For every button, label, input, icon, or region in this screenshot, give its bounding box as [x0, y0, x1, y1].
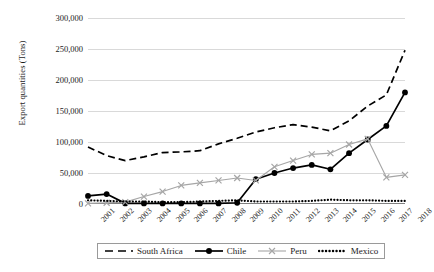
x-tick-label: 2012: [305, 207, 322, 224]
x-tick-label: 2009: [249, 207, 266, 224]
data-point-marker: [290, 158, 296, 164]
data-point-marker: [328, 166, 334, 172]
legend-swatch-dashed: [104, 246, 134, 256]
x-tick-label: 2010: [267, 207, 284, 224]
x-tick-label: 2003: [137, 207, 154, 224]
y-tick-label: 250,000: [55, 45, 83, 54]
x-tick-label: 2014: [342, 207, 359, 224]
series-line: [88, 50, 405, 160]
legend-item-chile[interactable]: Chile: [194, 246, 247, 256]
y-axis-title: Export quantities (Tons): [17, 13, 27, 153]
x-tick-label: 2018: [417, 207, 434, 224]
x-tick-label: 2016: [379, 207, 396, 224]
y-tick-label: 100,000: [55, 138, 83, 147]
legend-item-peru[interactable]: Peru: [257, 246, 307, 256]
x-tick-label: 2004: [156, 207, 173, 224]
y-tick-label: 50,000: [60, 169, 83, 178]
data-point-marker: [271, 164, 277, 170]
x-tick-label: 2017: [398, 207, 415, 224]
legend-item-mexico[interactable]: Mexico: [318, 246, 379, 256]
x-axis-ticks: 2001200220032004200520062007200820092010…: [88, 204, 405, 244]
plot-area: 050,000100,000150,000200,000250,000300,0…: [88, 18, 405, 204]
data-point-marker: [346, 141, 352, 147]
y-tick-label: 0: [79, 200, 83, 209]
data-point-marker: [309, 162, 315, 168]
series-line: [88, 92, 405, 203]
y-tick-label: 300,000: [55, 14, 83, 23]
data-point-marker: [104, 191, 110, 197]
x-tick-label: 2006: [193, 207, 210, 224]
series-south-africa: [88, 50, 405, 160]
series-chile: [85, 90, 408, 207]
legend-label: South Africa: [137, 247, 183, 256]
x-tick-label: 2008: [230, 207, 247, 224]
y-tick-label: 200,000: [55, 76, 83, 85]
x-tick-label: 2002: [118, 207, 135, 224]
series-mexico: [88, 200, 405, 202]
series-line: [88, 139, 405, 203]
legend-swatch-solid-circle: [194, 246, 224, 256]
data-point-marker: [272, 170, 278, 176]
legend-swatch-dotted: [318, 246, 348, 256]
legend-label: Peru: [290, 247, 307, 256]
data-point-marker: [290, 165, 296, 171]
x-tick-label: 2007: [212, 207, 229, 224]
data-point-marker: [383, 123, 389, 129]
x-tick-label: 2001: [100, 207, 117, 224]
chart-legend: South AfricaChilePeruMexico: [97, 243, 385, 259]
data-point-marker: [346, 150, 352, 156]
series-line: [88, 200, 405, 202]
legend-item-south-africa[interactable]: South Africa: [104, 246, 183, 256]
legend-label: Chile: [227, 247, 247, 256]
series-layer: [88, 18, 405, 204]
legend-swatch-solid-x: [257, 246, 287, 256]
legend-label: Mexico: [351, 247, 379, 256]
x-tick-label: 2005: [174, 207, 191, 224]
x-tick-label: 2011: [286, 207, 303, 224]
x-tick-label: 2013: [323, 207, 340, 224]
x-tick-label: 2015: [361, 207, 378, 224]
data-point-marker: [85, 193, 91, 199]
data-point-marker: [402, 90, 408, 96]
y-tick-label: 150,000: [55, 107, 83, 116]
